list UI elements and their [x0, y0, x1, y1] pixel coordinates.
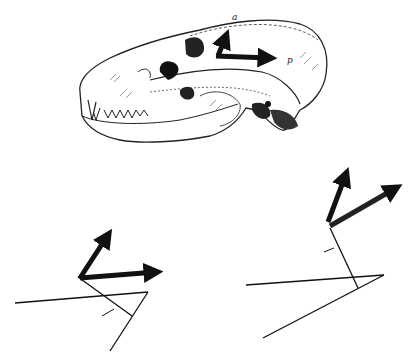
label-a: a: [232, 12, 237, 22]
label-p: p: [287, 55, 293, 65]
figure-canvas: a p: [0, 0, 415, 362]
left-arrow-up: [80, 235, 108, 278]
left-arrow-right: [80, 272, 156, 278]
left-vector-diagram: [15, 235, 156, 351]
skull-illustration: [80, 20, 327, 142]
right-arrow-up: [328, 174, 346, 222]
right-vector-diagram: [246, 174, 396, 338]
posterior-arrow: [216, 56, 270, 58]
